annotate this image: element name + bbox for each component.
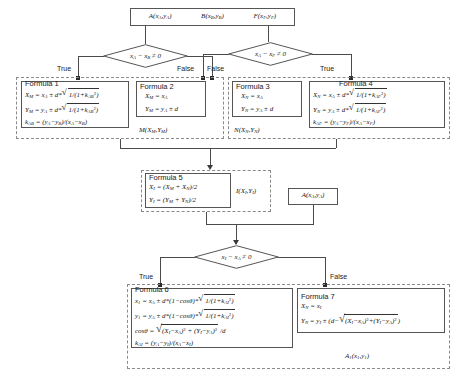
label-false-d2: False [207,65,224,73]
input-points-box: A(xA,yA) B(xB,yB) F(xF,yF) [130,8,295,26]
branch-d3-right-h [278,257,326,258]
formula-4-line-2: YN = yA ± d*1/(1+kAF2) [313,103,441,118]
connector-m-to-center [120,148,210,149]
formula-6-line-4: kAI = (yA−yI)/(xA−xI) [135,338,289,351]
label-true-d1: True [57,65,71,73]
formula-4-line-1: XN = xA ± d*1/(1+kAF2) [313,88,441,103]
branch-d1-left-h [78,56,104,57]
point-b-label: B(xB,yB) [201,11,224,24]
formula-7-line-2: YN = yI ± (d−(XI−xA)2+(YI−yA)2) [301,314,441,329]
formula-6-box: Formula 6 x1 = xA ± d*(1−cosθ)*1/(1+kAI2… [131,288,293,348]
result-a1-label: A1(x1,y1) [345,352,369,362]
formula-3-line-1: XN = xA [236,91,298,104]
connector-a-down [313,205,314,224]
point-f-label: F(xF,yF) [253,11,276,24]
connector-a-to-lower [236,224,314,225]
label-true-d2: True [320,65,334,73]
connector-i-down [206,212,207,224]
connector-input-to-dec-af [268,26,269,42]
formula-6-line-1: x1 = xA ± d*(1−cosθ)*1/(1+kAI2) [135,294,289,309]
branch-d2-right-h [312,54,352,55]
formula-4-line-3: kAF = (yA−yF)/(xA−xF) [313,117,441,130]
result-n-label: N(XN,YN) [234,126,260,136]
branch-d2-right-v [351,54,352,78]
formula-3-box: Formula 3 XN = xA YN = yA ± d [232,81,302,117]
decision-xa-xb-text: xA − xB ≠ 0 [103,44,188,68]
decision-xi-xa: xI − xA ≠ 0 [194,245,279,269]
branch-d1-right-h [187,56,213,57]
branch-d1-left-v [78,56,79,78]
result-m-label: M(XM,YM) [139,126,167,136]
formula-4-title: Formula 4 [313,79,441,88]
formula-2-title: Formula 2 [140,82,202,91]
formula-1-line-3: kAB = (yA−yB)/(xA−xB) [25,117,125,130]
formula-2-box: Formula 2 XM = xA YM = yA ± d [136,81,206,117]
label-true-d3: True [139,273,153,281]
branch-d3-right-v [325,257,326,285]
branch-d2-left-v [203,54,204,78]
decision-xa-xf: xA − xF ≠ 0 [228,42,313,66]
formula-5-line-2: YI = (YM + YN)/2 [149,195,227,208]
connector-n-down [336,139,337,148]
connector-i-to-lower [206,224,236,225]
point-a-box: A(xA,yA) [288,188,338,205]
formula-7-box: Formula 7 XN = xI YN = yI ± (d−(XI−xA)2+… [297,288,445,333]
branch-d2-left-h [203,54,229,55]
formula-3-title: Formula 3 [236,82,298,91]
decision-xi-xa-text: xI − xA ≠ 0 [194,245,279,269]
decision-xa-xb: xA − xB ≠ 0 [103,44,188,68]
decision-xa-xf-text: xA − xF ≠ 0 [228,42,313,66]
formula-4-box: Formula 4 XN = xA ± d*1/(1+kAF2) YN = yA… [309,81,445,128]
formula-2-line-1: XM = xA [140,91,202,104]
formula-5-line-1: XI = (XM + XN)/2 [149,182,227,195]
point-a-box-label: A(xA,yA) [292,190,334,203]
formula-1-title: Formula 1 [25,79,125,88]
result-i-label: I(XI,YI) [236,187,256,197]
formula-1-box: Formula 1 XM = xA ± d*1/(1+kAB2) YM = yA… [21,81,129,128]
formula-7-line-1: XN = xI [301,301,441,314]
formula-6-title: Formula 6 [135,285,289,294]
connector-m-down [120,139,121,148]
label-false-d1: False [177,65,194,73]
branch-d3-left-h [160,257,195,258]
formula-5-box: Formula 5 XI = (XM + XN)/2 YI = (YM + YN… [145,173,231,208]
connector-n-to-center [210,148,336,149]
connector-input-to-dec-ab [145,26,146,44]
label-false-d3: False [330,273,347,281]
formula-1-line-1: XM = xA ± d*1/(1+kAB2) [25,88,125,103]
formula-5-title: Formula 5 [149,173,227,182]
formula-3-line-2: YN = yA ± d [236,104,298,117]
formula-2-line-2: YM = yA ± d [140,104,202,117]
formula-7-title: Formula 7 [301,292,441,301]
branch-d3-left-v [160,257,161,285]
point-a-label: A(xA,yA) [149,11,172,24]
flowchart-canvas: A(xA,yA) B(xB,yB) F(xF,yF) xA − xB ≠ 0 x… [0,0,460,382]
formula-6-line-3: cosθ = (XI−xA)2 + (YI−yA)2 /d [135,324,289,339]
formula-1-line-2: YM = yA ± d*1/(1+kAB2) [25,103,125,118]
